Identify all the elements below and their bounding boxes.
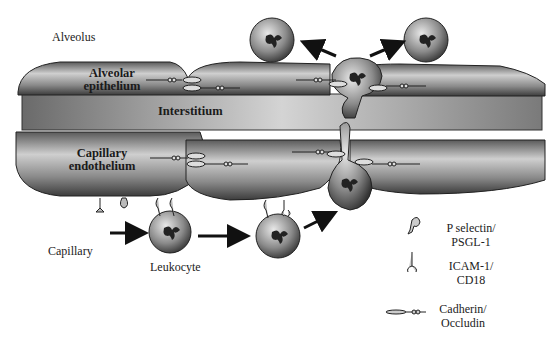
legend-cadherin-1: Cadherin/	[428, 302, 498, 316]
label-alveolar-epithelium-2: epithelium	[62, 79, 162, 93]
icam-icon	[408, 252, 417, 272]
label-capillary: Capillary	[48, 244, 93, 258]
cadherin-icon	[386, 310, 426, 314]
label-leukocyte: Leukocyte	[150, 260, 201, 274]
label-capillary-endothelium-1: Capillary	[52, 146, 152, 160]
p-selectin-icon	[408, 217, 420, 234]
legend-p-selectin-2: PSGL-1	[436, 235, 506, 249]
label-alveolus: Alveolus	[52, 30, 95, 44]
label-interstitium: Interstitium	[158, 104, 223, 118]
label-alveolar-epithelium-1: Alveolar	[62, 66, 162, 80]
diagram: Alveolus Alveolar epithelium Interstitiu…	[0, 0, 558, 338]
legend-icam-2: CD18	[436, 273, 506, 287]
legend-icam-1: ICAM-1/	[436, 259, 506, 273]
label-capillary-endothelium-2: endothelium	[52, 159, 152, 173]
interstitium-layer	[22, 94, 542, 130]
legend-p-selectin-1: P selectin/	[436, 221, 506, 235]
adhesion-molecules	[96, 198, 290, 218]
legend-icons	[386, 217, 426, 314]
legend-cadherin-2: Occludin	[428, 316, 498, 330]
